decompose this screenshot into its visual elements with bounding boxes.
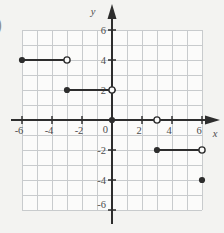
y-axis-title: y: [90, 6, 96, 17]
closed-endpoint-dot: [199, 177, 205, 183]
closed-endpoint-dot: [19, 57, 25, 63]
closed-endpoint-dot: [64, 87, 70, 93]
x-tick-label: -6: [15, 125, 24, 136]
open-endpoint-circle: [199, 147, 205, 153]
y-tick-label: -2: [97, 145, 106, 156]
y-tick-label: 4: [101, 55, 107, 66]
closed-endpoint-dot: [109, 117, 115, 123]
y-tick-label: -6: [97, 199, 106, 210]
open-endpoint-circle: [64, 57, 70, 63]
y-tick-label: 6: [101, 25, 106, 36]
x-axis-arrowhead: [205, 116, 220, 125]
x-tick-label: 2: [136, 125, 141, 136]
x-tick-label: 6: [196, 125, 201, 136]
origin-tick-label: 0: [103, 124, 108, 135]
x-tick-label: 4: [166, 125, 172, 136]
open-endpoint-circle: [154, 117, 160, 123]
y-axis-arrowhead: [108, 4, 117, 19]
x-tick-label: -2: [75, 125, 84, 136]
y-tick-label: -4: [97, 175, 106, 186]
closed-endpoint-dot: [154, 147, 160, 153]
x-tick-label: -4: [45, 125, 54, 136]
step-function-graph: -6-4-2246642-2-4-60xy: [0, 0, 224, 233]
open-endpoint-circle: [109, 87, 115, 93]
x-axis-title: x: [212, 128, 218, 139]
